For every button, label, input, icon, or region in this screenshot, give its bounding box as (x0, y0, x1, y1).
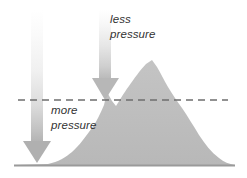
less-pressure-label-line1: less (110, 13, 131, 25)
diagram-canvas: less pressure more pressure (0, 0, 247, 178)
terrain-silhouette (14, 60, 235, 165)
more-pressure-arrow-shaft (31, 10, 43, 146)
more-pressure-label-line1: more (51, 104, 78, 116)
pressure-altitude-diagram: less pressure more pressure (0, 0, 247, 178)
more-pressure-arrow-head (23, 141, 51, 163)
more-pressure-arrow (23, 10, 51, 163)
less-pressure-label-line2: pressure (109, 28, 156, 40)
less-pressure-arrow-head (92, 78, 119, 100)
more-pressure-label-line2: pressure (50, 119, 97, 131)
